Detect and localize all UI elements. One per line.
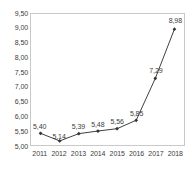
y-axis-tick-label: 5,00 (2, 143, 28, 150)
series-markers (39, 27, 177, 143)
y-axis-tick-label: 5,50 (2, 128, 28, 135)
data-point-label: 5,56 (111, 118, 124, 125)
y-axis-tick-label: 8,00 (2, 54, 28, 61)
plot-area (30, 13, 185, 146)
x-axis-tick-label: 2017 (148, 150, 163, 157)
data-point-marker (96, 129, 100, 133)
y-axis-tick-label: 9,50 (2, 10, 28, 17)
y-axis-tick-label: 7,50 (2, 69, 28, 76)
line-chart: 5,005,506,006,507,007,508,008,509,009,50… (0, 0, 191, 170)
data-point-marker (77, 132, 81, 136)
data-point-label: 7,29 (149, 67, 162, 74)
y-axis-tick-labels: 5,005,506,006,507,007,508,008,509,009,50 (0, 0, 28, 170)
y-axis-tick-label: 8,50 (2, 39, 28, 46)
data-point-marker (39, 131, 43, 135)
data-point-label: 5,39 (72, 123, 85, 130)
x-axis-tick-label: 2012 (51, 150, 66, 157)
y-axis-tick-label: 7,00 (2, 83, 28, 90)
y-axis-tick-label: 6,50 (2, 98, 28, 105)
y-axis-tick-label: 9,00 (2, 24, 28, 31)
x-axis-tick-label: 2015 (110, 150, 125, 157)
data-point-marker (115, 127, 119, 131)
x-axis-tick-labels: 20112012201320142015201620172018 (30, 150, 185, 164)
x-axis-tick-label: 2016 (129, 150, 144, 157)
x-axis-tick-label: 2011 (32, 150, 47, 157)
data-point-label: 5,48 (91, 121, 104, 128)
plot-series-svg (31, 14, 184, 145)
series-line (41, 29, 175, 141)
data-point-label: 5,40 (33, 123, 46, 130)
data-point-label: 8,98 (169, 17, 182, 24)
data-point-marker (134, 118, 138, 122)
x-axis-tick-label: 2013 (71, 150, 86, 157)
x-axis-tick-label: 2014 (90, 150, 105, 157)
data-point-marker (173, 27, 177, 31)
x-axis-tick-label: 2018 (168, 150, 183, 157)
y-axis-tick-label: 6,00 (2, 113, 28, 120)
data-point-label: 5,85 (130, 110, 143, 117)
data-point-marker (153, 76, 157, 80)
data-point-label: 5,14 (52, 133, 65, 140)
